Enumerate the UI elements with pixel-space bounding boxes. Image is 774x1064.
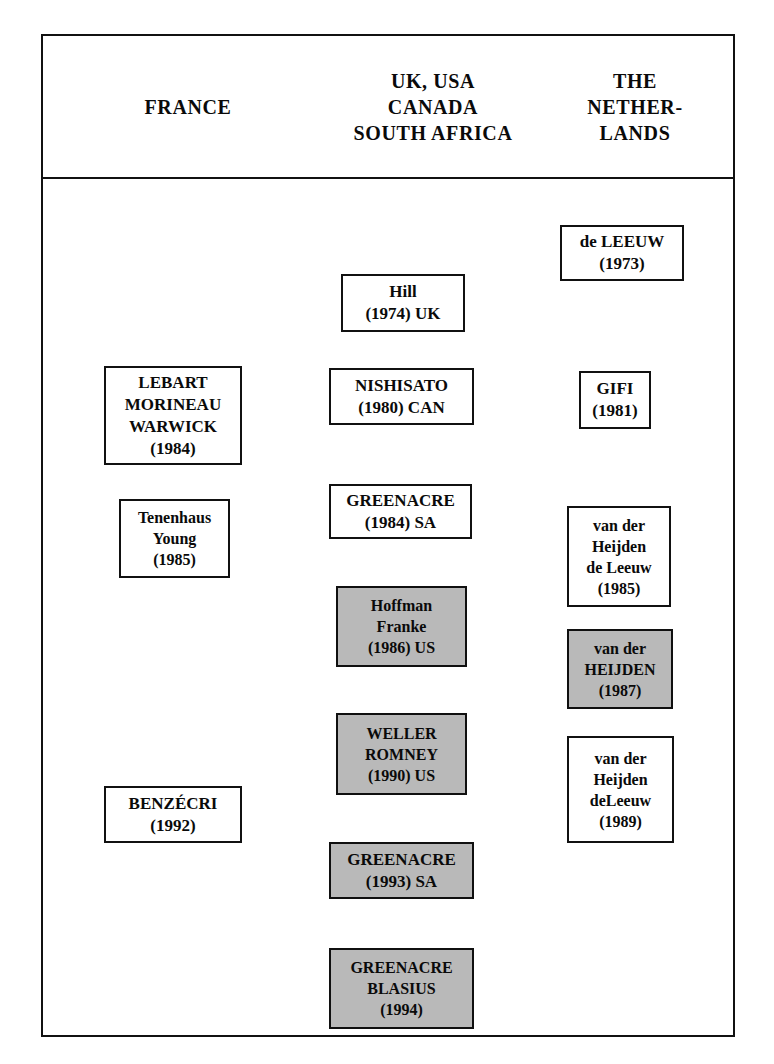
reference-box-line: Tenenhaus: [138, 507, 211, 528]
reference-box-line: LEBART: [138, 372, 207, 394]
reference-box-line: (1985): [598, 578, 641, 599]
reference-box-line: van der: [595, 748, 647, 769]
reference-box-line: (1985): [153, 549, 196, 570]
column-header-the-netherlands: THE NETHER- LANDS: [547, 68, 723, 146]
reference-box-greenacre-1984-sa: GREENACRE(1984) SA: [329, 484, 472, 539]
reference-box-de-leeuw-1973: de LEEUW(1973): [560, 225, 684, 281]
reference-box-lebart-morineau-warwick-1984: LEBARTMORINEAUWARWICK(1984): [104, 366, 242, 465]
reference-box-hoffman-franke-1986-us: HoffmanFranke(1986) US: [336, 586, 467, 667]
reference-box-line: BLASIUS: [367, 978, 435, 999]
reference-box-van-der-heijden-1987: van derHEIJDEN(1987): [567, 629, 673, 709]
reference-box-line: ROMNEY: [365, 744, 438, 765]
reference-box-line: Hill: [389, 281, 416, 303]
reference-box-tenenhaus-young-1985: TenenhausYoung(1985): [119, 499, 230, 578]
reference-box-line: (1993) SA: [366, 871, 437, 893]
reference-box-line: WELLER: [366, 723, 436, 744]
reference-boxes-area: LEBARTMORINEAUWARWICK(1984)TenenhausYoun…: [43, 179, 733, 1035]
reference-box-line: GREENACRE: [350, 957, 452, 978]
reference-box-line: (1989): [599, 811, 642, 832]
reference-box-line: Hoffman: [371, 595, 432, 616]
reference-box-line: de Leeuw: [586, 557, 651, 578]
figure-frame: FRANCE UK, USA CANADA SOUTH AFRICA THE N…: [41, 34, 735, 1037]
reference-box-line: GREENACRE: [346, 490, 455, 512]
reference-box-line: Young: [153, 528, 197, 549]
reference-box-line: (1990) US: [368, 765, 435, 786]
reference-box-line: (1986) US: [368, 637, 435, 658]
reference-box-line: (1984) SA: [365, 512, 436, 534]
reference-box-line: Heijden: [592, 536, 646, 557]
reference-box-line: (1974) UK: [365, 303, 440, 325]
reference-box-van-der-heijden-de-leeuw-1985: van derHeijdende Leeuw(1985): [567, 506, 671, 607]
reference-box-line: (1984): [150, 438, 195, 460]
reference-box-nishisato-1980-can: NISHISATO(1980) CAN: [329, 368, 474, 425]
reference-box-van-der-heijden-deleeuw-1989: van derHeijdendeLeeuw(1989): [567, 736, 674, 843]
reference-box-greenacre-1993-sa: GREENACRE(1993) SA: [329, 842, 474, 899]
reference-box-line: (1980) CAN: [358, 397, 444, 419]
reference-box-line: van der: [594, 638, 646, 659]
reference-box-greenacre-blasius-1994: GREENACREBLASIUS(1994): [329, 948, 474, 1029]
reference-box-line: de LEEUW: [580, 231, 665, 253]
reference-box-line: (1981): [592, 400, 637, 422]
column-header-france: FRANCE: [63, 94, 313, 120]
reference-box-line: (1973): [599, 253, 644, 275]
reference-box-line: Heijden: [593, 769, 647, 790]
reference-box-line: NISHISATO: [355, 375, 448, 397]
reference-box-line: van der: [593, 515, 645, 536]
reference-box-hill-1974-uk: Hill(1974) UK: [341, 274, 465, 332]
reference-box-line: Franke: [377, 616, 427, 637]
reference-box-line: GIFI: [597, 378, 634, 400]
reference-box-line: deLeeuw: [590, 790, 651, 811]
reference-box-line: (1987): [599, 680, 642, 701]
reference-box-line: MORINEAU: [125, 394, 221, 416]
reference-box-line: GREENACRE: [347, 849, 456, 871]
reference-box-line: HEIJDEN: [584, 659, 655, 680]
reference-box-line: (1994): [380, 999, 423, 1020]
column-header-band: FRANCE UK, USA CANADA SOUTH AFRICA THE N…: [43, 36, 733, 179]
reference-box-benzecri-1992: BENZÉCRI(1992): [104, 786, 242, 843]
reference-box-line: WARWICK: [129, 416, 217, 438]
column-header-uk-usa-canada-south-africa: UK, USA CANADA SOUTH AFRICA: [311, 68, 555, 146]
reference-box-line: (1992): [150, 815, 195, 837]
reference-box-weller-romney-1990-us: WELLERROMNEY(1990) US: [336, 713, 467, 795]
reference-box-gifi-1981: GIFI(1981): [579, 371, 651, 429]
reference-box-line: BENZÉCRI: [129, 793, 218, 815]
